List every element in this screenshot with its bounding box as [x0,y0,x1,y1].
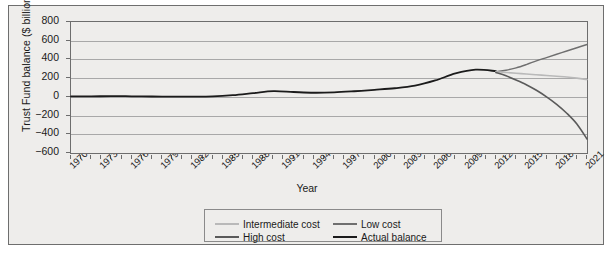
legend-swatch [215,223,239,225]
x-axis-tick [181,155,182,159]
x-axis-tick [546,155,547,159]
chart-legend: Intermediate costLow costHigh costActual… [204,209,442,242]
y-axis-tick-label: 0 [17,90,59,100]
plot-area [70,21,588,154]
x-axis-tick [576,155,577,159]
y-axis-tick-label: −200 [17,109,59,119]
chart-canvas: Trust Fund balance ($ billions) Year 800… [9,6,605,246]
x-axis-tick [363,155,364,159]
legend-swatch [333,236,357,238]
legend-label: Actual balance [361,232,427,243]
series-lines [71,22,587,153]
y-axis-tick-label: 800 [17,15,59,25]
series-line [496,72,587,80]
legend-label: High cost [243,232,285,243]
x-axis-tick [242,155,243,159]
x-axis-tick [151,155,152,159]
legend-swatch [333,223,357,225]
series-line [496,73,587,139]
series-line [71,70,496,97]
y-axis-tick-label: −600 [17,146,59,156]
x-axis-tick [121,155,122,159]
x-axis-tick [424,155,425,159]
y-axis-tick-label: 200 [17,71,59,81]
x-axis-title: Year [9,182,605,194]
x-axis-tick [212,155,213,159]
x-axis-tick [272,155,273,159]
series-line [496,44,587,71]
chart-figure: Trust Fund balance ($ billions) Year 800… [8,5,604,245]
legend-label: Intermediate cost [243,219,320,230]
x-axis-tick [333,155,334,159]
x-axis-tick [90,155,91,159]
x-axis-tick [515,155,516,159]
y-axis-tick-label: 600 [17,34,59,44]
x-axis-tick [303,155,304,159]
y-axis-tick-label: 400 [17,52,59,62]
x-axis-tick [454,155,455,159]
y-axis-tick-label: −400 [17,127,59,137]
legend-label: Low cost [361,219,400,230]
legend-swatch [215,236,239,238]
